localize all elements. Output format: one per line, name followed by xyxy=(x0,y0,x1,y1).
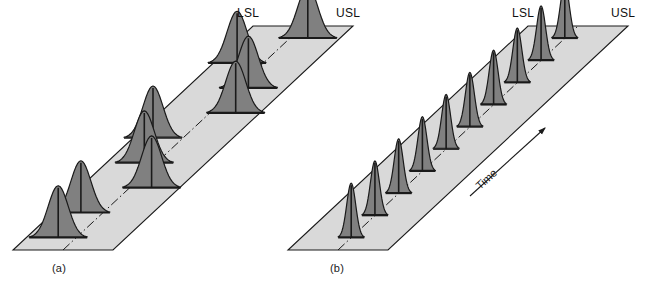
panel-a-lsl-label: LSL xyxy=(237,6,259,20)
panel-b-plane xyxy=(288,26,628,250)
panel-b-usl-label: USL xyxy=(611,6,635,20)
panel-a-distribution xyxy=(279,0,337,38)
panel-a-usl-label: USL xyxy=(336,6,360,20)
figure-canvas: Time xyxy=(0,0,649,286)
panel-b-caption: (b) xyxy=(330,262,344,274)
panel-a xyxy=(13,0,353,250)
panel-b-distribution xyxy=(552,0,578,38)
process-capability-figure: Time LSL USL LSL USL (a) (b) xyxy=(0,0,649,286)
panel-b-lsl-label: LSL xyxy=(512,6,534,20)
time-axis-label: Time xyxy=(473,166,499,191)
panel-a-caption: (a) xyxy=(52,262,66,274)
